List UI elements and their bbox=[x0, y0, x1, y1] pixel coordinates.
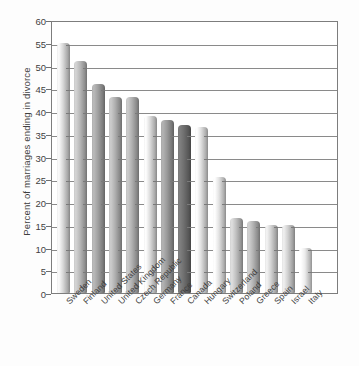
chart-figure: Percent of marriages ending in divorce 0… bbox=[0, 0, 359, 366]
bar-gridline-tick bbox=[170, 227, 174, 228]
y-tick-label: 55 bbox=[18, 38, 46, 49]
bar-gridline-tick bbox=[256, 272, 260, 273]
bar-gridline-tick bbox=[118, 250, 122, 251]
bar-gridline-tick bbox=[187, 159, 191, 160]
bar-gridline-tick bbox=[135, 227, 139, 228]
y-tick-label: 0 bbox=[18, 289, 46, 300]
y-tick-label: 40 bbox=[18, 107, 46, 118]
bar-gridline-tick bbox=[222, 227, 226, 228]
bar bbox=[213, 177, 226, 293]
bar-gridline-tick bbox=[66, 68, 70, 69]
bar-gridline-tick bbox=[170, 136, 174, 137]
bar bbox=[57, 43, 70, 293]
bar-gridline-tick bbox=[291, 250, 295, 251]
bar-gridline-tick bbox=[153, 272, 157, 273]
bar-gridline-tick bbox=[204, 181, 208, 182]
bar-gridline-tick bbox=[135, 204, 139, 205]
plot-area bbox=[51, 21, 338, 294]
bar-gridline-tick bbox=[66, 90, 70, 91]
y-tick-label: 35 bbox=[18, 129, 46, 140]
bar-gridline-tick bbox=[239, 272, 243, 273]
bar-gridline-tick bbox=[101, 227, 105, 228]
y-tick-label: 50 bbox=[18, 61, 46, 72]
bar-gridline-tick bbox=[101, 204, 105, 205]
bar bbox=[178, 125, 191, 293]
bar-gridline-tick bbox=[204, 204, 208, 205]
bar-gridline-tick bbox=[187, 181, 191, 182]
bar-gridline-tick bbox=[118, 272, 122, 273]
bar-gridline-tick bbox=[308, 272, 312, 273]
bar-gridline-tick bbox=[222, 250, 226, 251]
bar-gridline-tick bbox=[274, 272, 278, 273]
bar bbox=[282, 225, 295, 293]
bar-gridline-tick bbox=[66, 159, 70, 160]
bar bbox=[299, 248, 312, 294]
bar-gridline-tick bbox=[118, 181, 122, 182]
bar-gridline-tick bbox=[187, 227, 191, 228]
bar-gridline-tick bbox=[308, 250, 312, 251]
bar-gridline-tick bbox=[204, 159, 208, 160]
y-tick-label: 30 bbox=[18, 152, 46, 163]
bar-gridline-tick bbox=[66, 272, 70, 273]
bar-gridline-tick bbox=[256, 250, 260, 251]
bar-gridline-tick bbox=[274, 227, 278, 228]
bar-gridline-tick bbox=[101, 250, 105, 251]
bar bbox=[247, 221, 260, 293]
bar-gridline-tick bbox=[291, 227, 295, 228]
bar-gridline-tick bbox=[170, 159, 174, 160]
y-tick-label: 60 bbox=[18, 16, 46, 27]
y-tick-label: 25 bbox=[18, 175, 46, 186]
bar-gridline-tick bbox=[118, 113, 122, 114]
bar-gridline-tick bbox=[83, 272, 87, 273]
bar bbox=[161, 120, 174, 293]
bar-gridline-tick bbox=[170, 181, 174, 182]
bar-gridline-tick bbox=[170, 272, 174, 273]
bar-gridline-tick bbox=[153, 159, 157, 160]
bar-gridline-tick bbox=[135, 159, 139, 160]
bar-gridline-tick bbox=[118, 159, 122, 160]
bar-gridline-tick bbox=[274, 250, 278, 251]
bar-gridline-tick bbox=[66, 136, 70, 137]
bar-gridline-tick bbox=[204, 136, 208, 137]
bar-gridline-tick bbox=[204, 250, 208, 251]
bar-gridline-tick bbox=[118, 136, 122, 137]
bar-gridline-tick bbox=[135, 250, 139, 251]
bar-gridline-tick bbox=[204, 272, 208, 273]
bar-gridline-tick bbox=[101, 159, 105, 160]
bar-gridline-tick bbox=[222, 181, 226, 182]
y-tick-label: 5 bbox=[18, 266, 46, 277]
bar-gridline-tick bbox=[101, 136, 105, 137]
bar-gridline-tick bbox=[170, 250, 174, 251]
bar bbox=[126, 97, 139, 293]
y-tick-mark bbox=[46, 294, 51, 295]
bar-gridline-tick bbox=[66, 250, 70, 251]
bar-gridline-tick bbox=[83, 181, 87, 182]
bar-gridline-tick bbox=[153, 204, 157, 205]
bar-gridline-tick bbox=[153, 181, 157, 182]
bar-gridline-tick bbox=[66, 181, 70, 182]
gridline bbox=[52, 45, 337, 46]
bar-gridline-tick bbox=[83, 68, 87, 69]
bar-gridline-tick bbox=[83, 90, 87, 91]
bar-gridline-tick bbox=[83, 113, 87, 114]
bar-gridline-tick bbox=[135, 136, 139, 137]
y-tick-label: 15 bbox=[18, 220, 46, 231]
bar-gridline-tick bbox=[118, 227, 122, 228]
bar-gridline-tick bbox=[83, 159, 87, 160]
bar-gridline-tick bbox=[83, 250, 87, 251]
gridline bbox=[52, 68, 337, 69]
bar-gridline-tick bbox=[170, 204, 174, 205]
bar-gridline-tick bbox=[83, 227, 87, 228]
bar-gridline-tick bbox=[135, 272, 139, 273]
bar-gridline-tick bbox=[101, 113, 105, 114]
bar-gridline-tick bbox=[66, 113, 70, 114]
bar-gridline-tick bbox=[187, 136, 191, 137]
bar-gridline-tick bbox=[83, 136, 87, 137]
bar-gridline-tick bbox=[239, 250, 243, 251]
bar-gridline-tick bbox=[153, 250, 157, 251]
bar-gridline-tick bbox=[66, 204, 70, 205]
bar bbox=[195, 127, 208, 293]
bar-gridline-tick bbox=[239, 227, 243, 228]
bar-gridline-tick bbox=[153, 227, 157, 228]
bar-gridline-tick bbox=[291, 272, 295, 273]
